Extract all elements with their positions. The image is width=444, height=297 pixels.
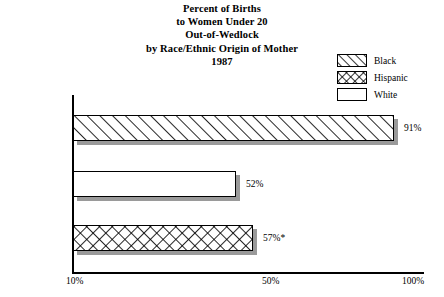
legend-label-hispanic: Hispanic: [374, 73, 408, 83]
bar-white: [73, 171, 236, 197]
legend-swatch-diagonal-hatch-icon: [337, 54, 367, 67]
bar-value-hispanic: 57%*: [263, 233, 285, 243]
title-line-2: to Women Under 20: [0, 15, 444, 28]
bar-value-black: 91%: [404, 123, 421, 133]
bar-black: [73, 115, 394, 141]
x-tick-label-100: 100%: [402, 276, 424, 286]
plot-area: 91% 52% 57%* 10% 50% 100%: [72, 95, 424, 272]
bar-row-black: 91%: [73, 115, 394, 141]
title-line-3: Out-of-Wedlock: [0, 28, 444, 41]
bar-row-white: 52%: [73, 171, 236, 197]
x-axis-line: [72, 272, 424, 274]
legend-swatch-cross-hatch-icon: [337, 71, 367, 84]
x-tick-label-10: 10%: [66, 276, 83, 286]
bar-row-hispanic: 57%*: [73, 225, 253, 251]
legend-label-black: Black: [374, 56, 396, 66]
bar-hispanic: [73, 225, 253, 251]
legend-item-black: Black: [337, 52, 437, 69]
bar-value-white: 52%: [246, 179, 263, 189]
legend-item-hispanic: Hispanic: [337, 69, 437, 86]
title-line-1: Percent of Births: [0, 2, 444, 15]
x-tick-label-50: 50%: [262, 276, 279, 286]
